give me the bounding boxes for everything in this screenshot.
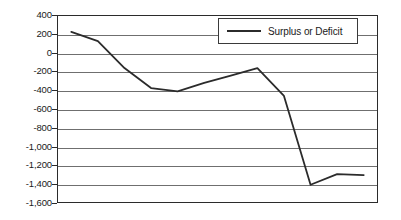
y-axis-tick-label: -1,000 — [0, 142, 52, 152]
y-axis-tick-label: -1,400 — [0, 179, 52, 189]
legend-label-surplus-or-deficit: Surplus or Deficit — [268, 26, 342, 37]
y-axis-tick-label: -400 — [0, 85, 52, 95]
y-axis-tick-label: 0 — [0, 48, 52, 58]
y-axis-tick-label: 400 — [0, 10, 52, 20]
y-axis-tick-mark — [52, 203, 57, 204]
y-axis-tick-label: -200 — [0, 66, 52, 76]
y-axis-tick-label: -600 — [0, 104, 52, 114]
y-axis-tick-label: 200 — [0, 29, 52, 39]
chart-container: 4002000-200-400-600-800-1,000-1,200-1,40… — [0, 0, 401, 220]
series-line — [71, 32, 363, 185]
y-axis-tick-label: -1,600 — [0, 198, 52, 208]
y-axis-tick-label: -1,200 — [0, 160, 52, 170]
chart-legend: Surplus or Deficit — [218, 18, 358, 44]
legend-line-swatch — [227, 30, 261, 32]
y-axis-tick-label: -800 — [0, 123, 52, 133]
